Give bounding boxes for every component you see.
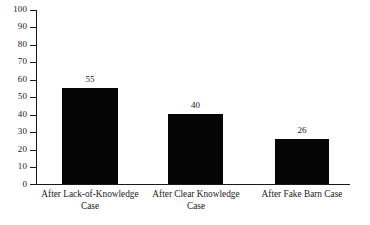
y-tick-mark — [30, 150, 36, 151]
y-tick-label: 90 — [0, 22, 27, 31]
y-tick-label: 80 — [0, 40, 27, 49]
y-tick-label: 10 — [0, 162, 27, 171]
plot-area: 100 90 80 70 60 50 40 30 — [0, 0, 370, 225]
bar[interactable] — [275, 139, 329, 184]
bar-value-label: 55 — [62, 75, 118, 84]
y-tick-label: 70 — [0, 57, 27, 66]
y-tick-label: 60 — [0, 75, 27, 84]
x-category-label-line2: Case — [28, 201, 152, 213]
y-tick-label: 40 — [0, 110, 27, 119]
x-category-label-line1: After Lack-of-Knowledge — [41, 189, 138, 199]
x-category-label-line1: After Fake Barn Case — [262, 189, 343, 199]
bar-value-label: 26 — [275, 126, 329, 135]
bar[interactable] — [62, 88, 118, 184]
bar-chart: 100 90 80 70 60 50 40 30 — [0, 0, 370, 225]
y-tick-mark — [30, 167, 36, 168]
x-axis-line — [36, 184, 350, 185]
y-tick-label: 50 — [0, 92, 27, 101]
x-category-label: After Clear Knowledge Case — [141, 189, 251, 212]
y-tick-mark — [30, 97, 36, 98]
y-tick-label: 30 — [0, 127, 27, 136]
y-tick-mark — [30, 45, 36, 46]
y-tick-mark — [30, 10, 36, 11]
y-tick-label: 100 — [0, 5, 27, 14]
x-category-label-line1: After Clear Knowledge — [152, 189, 239, 199]
bar-value-label: 40 — [168, 101, 223, 110]
y-tick-label: 20 — [0, 145, 27, 154]
x-category-label-line2: Case — [141, 201, 251, 213]
y-tick-mark — [30, 132, 36, 133]
y-tick-mark — [30, 80, 36, 81]
x-category-label: After Lack-of-Knowledge Case — [28, 189, 152, 212]
y-tick-mark — [30, 115, 36, 116]
y-axis-line — [36, 10, 37, 185]
bar[interactable] — [168, 114, 223, 184]
y-tick-mark — [30, 27, 36, 28]
y-tick-label: 0 — [0, 180, 27, 189]
y-tick-mark — [30, 62, 36, 63]
x-category-label: After Fake Barn Case — [252, 189, 352, 201]
